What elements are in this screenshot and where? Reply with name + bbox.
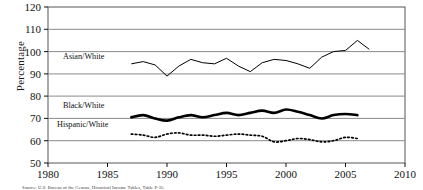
source-note: Source: U.S. Bureau of the Census, Histo…: [22, 185, 165, 190]
y-tick-label-110: 110: [25, 23, 42, 35]
figure-container: 120 110 100 90 80 70 60 50 1980 1985 199…: [0, 0, 423, 190]
series-label-asian-white: Asian/White: [63, 52, 105, 61]
x-axis-ticks: [48, 163, 405, 167]
y-tick-label-90: 90: [30, 68, 42, 80]
x-tick-label-2005: 2005: [335, 168, 358, 180]
x-tick-label-2000: 2000: [275, 168, 298, 180]
x-tick-label-1990: 1990: [156, 168, 179, 180]
y-tick-label-60: 60: [30, 135, 42, 147]
plot-frame: [48, 7, 405, 163]
series-label-hispanic-white: Hispanic/White: [57, 120, 109, 129]
x-tick-label-1980: 1980: [37, 168, 60, 180]
x-tick-label-1985: 1985: [97, 168, 120, 180]
x-tick-label-1995: 1995: [216, 168, 239, 180]
line-chart: 120 110 100 90 80 70 60 50 1980 1985 199…: [0, 0, 423, 190]
y-axis-ticks: [44, 7, 48, 163]
x-tick-label-2010: 2010: [394, 168, 417, 180]
y-tick-label-100: 100: [25, 46, 42, 58]
y-axis-title: Percentage: [14, 16, 26, 116]
y-tick-label-120: 120: [25, 1, 42, 13]
series-label-black-white: Black/White: [63, 101, 105, 110]
y-tick-label-80: 80: [30, 90, 42, 102]
y-tick-label-70: 70: [30, 112, 42, 124]
